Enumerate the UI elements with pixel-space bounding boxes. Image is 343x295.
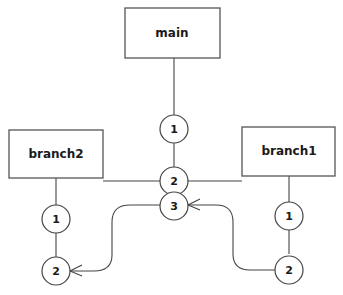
commit-node-main-3[interactable]: 3 <box>160 192 188 220</box>
merge-arrow-main3-to-branch2-2 <box>70 205 160 271</box>
commit-node-branch2-1[interactable]: 1 <box>42 205 70 233</box>
commit-node-branch2-2[interactable]: 2 <box>42 257 70 285</box>
commit-node-main-2[interactable]: 2 <box>160 167 188 195</box>
branch-label-branch2: branch2 <box>28 147 83 161</box>
merge-arrow-branch1-2-to-main3 <box>188 205 275 270</box>
commit-label: 2 <box>52 265 60 278</box>
commit-label: 1 <box>52 213 60 226</box>
branch-box-main[interactable]: main <box>125 8 220 58</box>
branch-label-branch1: branch1 <box>261 144 316 158</box>
commit-label: 2 <box>285 264 293 277</box>
commit-label: 3 <box>170 200 178 213</box>
commit-label: 1 <box>170 123 178 136</box>
commit-label: 1 <box>285 210 293 223</box>
branch-box-branch2[interactable]: branch2 <box>9 130 103 178</box>
branch-diagram: main branch2 branch1 1 2 3 1 2 1 2 <box>0 0 343 295</box>
branch-label-main: main <box>155 26 188 40</box>
commit-node-main-1[interactable]: 1 <box>160 115 188 143</box>
commit-node-branch1-2[interactable]: 2 <box>275 256 303 284</box>
commit-node-branch1-1[interactable]: 1 <box>275 202 303 230</box>
commit-label: 2 <box>170 175 178 188</box>
branch-box-branch1[interactable]: branch1 <box>242 127 335 176</box>
